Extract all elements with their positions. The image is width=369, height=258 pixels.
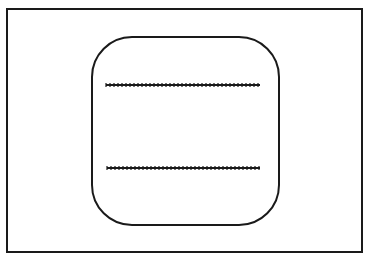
diagram-canvas [0,0,369,258]
background [0,0,369,258]
